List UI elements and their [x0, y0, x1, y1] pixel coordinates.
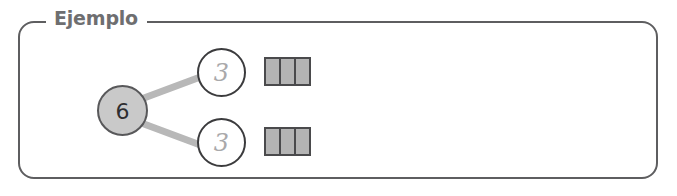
- example-panel: Ejemplo 6 3 3: [0, 0, 677, 196]
- number-bond-part-node-2: 3: [197, 118, 246, 167]
- panel-legend-label: Ejemplo: [46, 7, 147, 29]
- block-unit: [281, 59, 294, 84]
- whole-value: 6: [116, 101, 130, 123]
- block-group-2: [264, 127, 311, 156]
- block-unit: [296, 129, 309, 154]
- connector-line-upper: [144, 76, 203, 98]
- part-value-1: 3: [214, 61, 229, 85]
- block-unit: [281, 129, 294, 154]
- block-unit: [266, 129, 279, 154]
- block-group-1: [264, 57, 311, 86]
- part-value-2: 3: [214, 131, 229, 155]
- number-bond-part-node-1: 3: [197, 48, 246, 97]
- number-bond-whole-node: 6: [97, 85, 148, 136]
- connector-line-lower: [144, 124, 203, 146]
- block-unit: [296, 59, 309, 84]
- block-unit: [266, 59, 279, 84]
